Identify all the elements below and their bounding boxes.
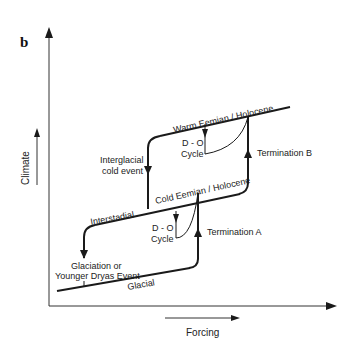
y-axis-arrowhead-icon [45, 27, 53, 38]
do-upper-arrow-icon [202, 129, 208, 138]
x-axis-arrowhead-icon [326, 302, 337, 310]
termination-a-arrow-icon [194, 228, 202, 237]
x-axis-label: Forcing [186, 327, 219, 338]
panel-label: b [20, 34, 28, 50]
forcing-arrow-icon [231, 315, 240, 321]
termination-b-label: Termination B [257, 148, 312, 158]
glaciation-arrow-icon [80, 250, 88, 259]
do-upper-label-2: Cycle [181, 149, 204, 159]
do-upper-label-1: D - O [182, 138, 204, 148]
termination-b-arrow-icon [244, 149, 252, 158]
forcing-indicator: Forcing [165, 315, 240, 338]
interglacial-label-1: Interglacial [100, 155, 144, 165]
interglacial-label-2: cold event [102, 166, 144, 176]
warm-state-label: Warm Eemian / Holocene [172, 103, 274, 135]
do-lower-label-1: D - O [152, 223, 174, 233]
termination-a-label: Termination A [207, 227, 262, 237]
down-arrow-icon [144, 166, 152, 175]
do-lower-label-2: Cycle [151, 234, 174, 244]
do-lower-arrow-icon [173, 214, 179, 223]
climate-indicator: Climate [20, 128, 40, 185]
climate-arrow-icon [34, 128, 40, 137]
hysteresis-diagram: b Climate Forcing Warm Eemian / Holocene… [0, 0, 349, 356]
y-axis-label: Climate [20, 151, 31, 185]
glaciation-label-1: Glaciation or [71, 261, 122, 271]
interstadial-label: Interstadial [90, 209, 135, 226]
